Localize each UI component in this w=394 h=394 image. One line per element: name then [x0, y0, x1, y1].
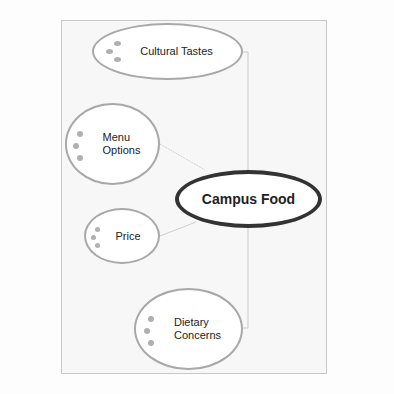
bullet-icon: [144, 316, 154, 346]
bullet-icon: [91, 227, 100, 248]
node-label-line: Dietary: [174, 316, 209, 328]
node-label: Cultural Tastes: [140, 45, 213, 58]
bullet-icon: [106, 41, 121, 62]
diagram-canvas: Cultural Tastes Menu Options Campus Food…: [0, 0, 394, 394]
node-menu-options[interactable]: Menu Options: [65, 103, 160, 185]
node-label-line: Options: [103, 144, 141, 156]
node-cultural-tastes[interactable]: Cultural Tastes: [92, 23, 243, 80]
node-dietary-concerns[interactable]: Dietary Concerns: [134, 288, 243, 370]
node-price[interactable]: Price: [84, 208, 160, 264]
central-label: Campus Food: [202, 193, 295, 206]
node-label: Price: [115, 230, 140, 243]
node-label: Dietary Concerns: [174, 316, 221, 342]
node-campus-food[interactable]: Campus Food: [175, 170, 322, 228]
node-label: Menu Options: [103, 131, 141, 157]
node-label-line: Menu: [103, 131, 131, 143]
bullet-icon: [73, 131, 83, 161]
node-label-line: Concerns: [174, 329, 221, 341]
